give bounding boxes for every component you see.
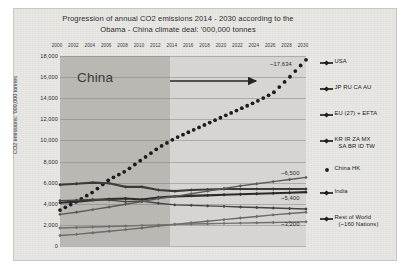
data-point: [272, 192, 275, 195]
data-point: [63, 205, 67, 209]
data-point: [283, 80, 287, 84]
x-axis-tick-2022: 2022: [232, 43, 243, 48]
data-point: [91, 225, 94, 228]
y-axis-ticks: 18,00016,00014,00012,00010,0008,0006,000…: [20, 50, 58, 248]
line-diamond-marker: [320, 59, 333, 67]
line-diamond-marker: [320, 137, 333, 145]
data-point: [124, 197, 127, 200]
data-point: [304, 58, 308, 62]
y-axis-tick-14,000: 14,000: [40, 95, 58, 101]
data-point: [108, 230, 111, 233]
legend-label-line2: SA BR ID TW: [335, 143, 375, 150]
data-point: [222, 193, 225, 196]
data-point: [202, 123, 206, 127]
data-point: [58, 208, 62, 212]
data-point: [144, 155, 148, 159]
data-point: [173, 189, 176, 192]
chart-legend: USAJP RU CA AUEU (27) + EFTAKR IR ZA MXS…: [320, 58, 402, 244]
data-point: [239, 193, 242, 196]
legend-item-india[interactable]: India: [320, 188, 402, 197]
data-point: [239, 216, 242, 219]
x-axis-tick-2014: 2014: [166, 43, 177, 48]
data-point: [261, 96, 265, 100]
data-point: [272, 90, 276, 94]
data-point: [255, 206, 258, 209]
data-point: [235, 109, 239, 113]
data-point: [288, 178, 291, 181]
legend-label: EU (27) + EFTA: [335, 110, 378, 117]
series-jp-ru-ca-au: [58, 190, 307, 204]
data-point: [190, 204, 193, 207]
data-point: [149, 151, 153, 155]
x-axis-tick-2026: 2026: [265, 43, 276, 48]
data-point: [255, 187, 258, 190]
data-point: [222, 222, 225, 225]
y-axis-tick-6,000: 6,000: [44, 180, 59, 186]
data-point: [75, 226, 78, 229]
data-point: [133, 163, 137, 167]
data-point: [138, 159, 142, 163]
data-point: [181, 133, 185, 137]
legend-label: China HK: [335, 165, 361, 172]
data-point: [75, 182, 78, 185]
series-usa: [58, 181, 307, 193]
data-point: [197, 126, 201, 130]
data-point: [272, 187, 275, 190]
series-line: [60, 192, 306, 203]
data-point: [154, 147, 158, 151]
y-axis-tick-12,000: 12,000: [40, 116, 58, 122]
legend-item-rest-of-world[interactable]: Rest of World(~160 Nations): [320, 214, 402, 228]
legend-item-china-hk[interactable]: China HK: [320, 165, 402, 174]
x-axis-tick-2030: 2030: [298, 43, 309, 48]
y-axis-tick-16,000: 16,000: [40, 74, 58, 80]
y-axis-tick-0: 0: [55, 243, 58, 249]
data-point: [117, 173, 121, 177]
data-point: [108, 205, 111, 208]
data-point: [229, 111, 233, 115]
y-axis-tick-2,000: 2,000: [44, 222, 59, 228]
x-axis-tick-2004: 2004: [84, 43, 95, 48]
line-diamond-marker: [320, 111, 333, 119]
data-point: [288, 191, 291, 194]
data-point: [124, 224, 127, 227]
chart-figure: Progression of annual CO2 emissions 2014…: [0, 0, 410, 276]
line-diamond-marker: [320, 85, 333, 93]
data-point: [239, 221, 242, 224]
data-point: [173, 203, 176, 206]
data-point: [124, 203, 127, 206]
legend-label: Rest of World(~160 Nations): [335, 214, 379, 228]
data-point: [267, 93, 271, 97]
data-point: [128, 166, 132, 170]
legend-label-line1: KR IR ZA MX: [335, 136, 371, 142]
data-point: [206, 194, 209, 197]
legend-label-line1: JP RU CA AU: [335, 84, 372, 90]
data-point: [256, 99, 260, 103]
data-point: [122, 170, 126, 174]
data-point: [206, 204, 209, 207]
legend-label-line1: USA: [335, 58, 347, 64]
data-point: [288, 212, 291, 215]
data-point: [222, 218, 225, 221]
data-point: [255, 192, 258, 195]
x-axis-tick-2012: 2012: [150, 43, 161, 48]
data-point: [186, 130, 190, 134]
value-label-india: ~3,200: [281, 221, 300, 227]
legend-item-eu-27-efta[interactable]: EU (27) + EFTA: [320, 110, 402, 119]
data-point: [124, 228, 127, 231]
x-axis-tick-2018: 2018: [199, 43, 210, 48]
line-diamond-marker: [320, 189, 333, 197]
value-label-usa: ~5,400: [281, 195, 300, 201]
legend-item-usa[interactable]: USA: [320, 58, 402, 67]
data-point: [272, 221, 275, 224]
data-point: [165, 141, 169, 145]
data-point: [192, 128, 196, 132]
data-point: [173, 223, 176, 226]
data-point: [224, 113, 228, 117]
y-axis-tick-8,000: 8,000: [44, 159, 59, 165]
data-point: [245, 104, 249, 108]
data-point: [75, 211, 78, 214]
x-axis-tick-2016: 2016: [183, 43, 194, 48]
legend-item-jp-ru-ca-au[interactable]: JP RU CA AU: [320, 84, 402, 93]
legend-item-kr-ir-za-mx[interactable]: KR IR ZA MXSA BR ID TW: [320, 136, 402, 150]
y-axis-tick-4,000: 4,000: [44, 201, 59, 207]
